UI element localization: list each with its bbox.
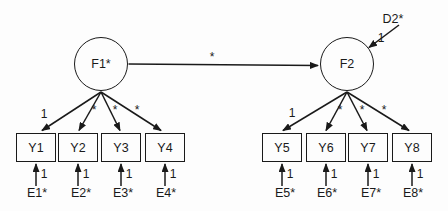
indicator-y8: Y8 [392,133,432,162]
error-term-e4: E4* [156,187,176,200]
loading-label-f1-y4: * [135,104,140,116]
indicator-y4: Y4 [145,133,185,162]
error-term-e7: E7* [361,187,381,200]
path-coefficient-label: * [210,51,215,63]
loading-label-f1-y1: 1 [41,108,48,120]
latent-factor-f1: F1* [74,37,128,91]
error-loading-label-e4: 1 [170,168,177,180]
indicator-y1: Y1 [16,133,56,162]
error-loading-label-e3: 1 [126,168,133,180]
latent-factor-f2: F2 [320,37,374,91]
error-term-e6: E6* [317,187,337,200]
error-loading-label-e6: 1 [331,168,338,180]
loading-label-f2-y7: * [360,104,365,116]
loading-label-f2-y6: * [338,104,343,116]
indicator-y5: Y5 [262,133,302,162]
error-term-e2: E2* [71,187,91,200]
error-term-e5: E5* [275,187,295,200]
error-loading-label-e5: 1 [287,168,294,180]
error-loading-label-e2: 1 [83,168,90,180]
loading-label-f2-y5: 1 [289,107,296,119]
loading-label-f1-y3: * [113,104,118,116]
error-loading-label-e1: 1 [41,168,48,180]
indicator-y6: Y6 [306,133,346,162]
indicator-y3: Y3 [101,133,141,162]
disturbance-label: D2* [383,13,404,26]
error-loading-label-e8: 1 [417,168,424,180]
loading-label-f2-y8: * [382,104,387,116]
error-loading-label-e7: 1 [373,168,380,180]
loading-label-f1-y2: * [92,104,97,116]
error-term-e3: E3* [113,187,133,200]
arrow-f1-to-y2 [79,92,101,131]
disturbance-loading-label: 1 [378,32,385,44]
sem-path-diagram: F1* F2 * D2* 1 Y1 Y2 Y3 Y4 Y5 Y6 Y7 Y8 1… [0,0,448,211]
arrow-f1-to-f2 [129,64,319,66]
error-term-e8: E8* [403,187,423,200]
error-term-e1: E1* [27,187,47,200]
indicator-y2: Y2 [58,133,98,162]
indicator-y7: Y7 [348,133,388,162]
